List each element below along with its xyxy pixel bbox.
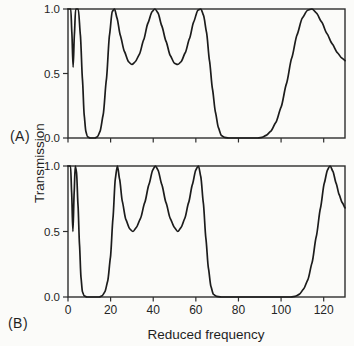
figure: 0.00.51.00204060801001200.00.51.0 Transm… <box>0 0 354 346</box>
panel-b: 0204060801001200.00.51.0 <box>44 160 345 317</box>
x-tick-label: 80 <box>232 303 246 317</box>
panel-a: 0.00.51.0 <box>44 3 345 144</box>
y-tick-label: 0.0 <box>44 291 60 303</box>
x-tick-label: 20 <box>104 303 118 317</box>
transmission-curve-a <box>68 9 345 138</box>
panel-a-label: (A) <box>10 128 30 144</box>
panel-b-label: (B) <box>8 315 28 331</box>
charts-canvas: 0.00.51.00204060801001200.00.51.0 <box>0 0 354 346</box>
transmission-curve-b <box>68 166 345 297</box>
x-tick-label: 100 <box>271 303 291 317</box>
x-axis-title: Reduced frequency <box>147 327 264 342</box>
y-tick-label: 0.5 <box>44 226 60 238</box>
x-tick-label: 60 <box>189 303 203 317</box>
y-axis-title: Transmission <box>32 123 47 203</box>
x-tick-label: 40 <box>147 303 161 317</box>
y-tick-label: 0.5 <box>44 68 60 80</box>
y-tick-label: 1.0 <box>44 3 60 15</box>
x-tick-label: 120 <box>314 303 334 317</box>
x-tick-label: 0 <box>65 303 72 317</box>
plot-frame-b <box>68 166 345 297</box>
